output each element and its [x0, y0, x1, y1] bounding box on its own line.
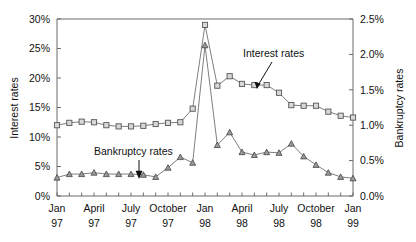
left-axis-tick-label: 20% — [29, 72, 50, 84]
data-point-marker — [338, 174, 344, 180]
data-point-marker — [326, 109, 331, 114]
right-axis-tick-label: 1.0% — [360, 119, 384, 131]
y2-axis-title: Bankruptcy rates — [393, 69, 405, 148]
series-line — [57, 45, 353, 178]
data-point-marker — [350, 115, 355, 120]
x-axis-ticks — [57, 193, 353, 197]
x-axis-tick-labels: Jan97April97July97October97Jan98April98J… — [49, 202, 362, 229]
data-point-marker — [325, 170, 331, 176]
data-point-marker — [165, 120, 170, 125]
y-axis-title: Interest rates — [8, 77, 20, 138]
left-axis-tick-label: 10% — [29, 131, 50, 143]
dual-axis-line-chart: 30%25%20%15%10%5%0% 2.5%2.0%1.5%1.0%0.5%… — [0, 0, 416, 242]
x-axis-month-label: Jan — [197, 202, 214, 214]
data-point-marker — [288, 141, 294, 147]
x-axis-year-label: 98 — [236, 217, 248, 229]
data-point-marker — [227, 129, 233, 135]
right-axis-tick-labels: 2.5%2.0%1.5%1.0%0.5%0.0% — [360, 13, 384, 202]
x-axis-month-label: October — [297, 202, 335, 214]
left-axis-tick-label: 15% — [29, 101, 50, 113]
x-axis-year-label: 98 — [310, 217, 322, 229]
right-axis-tick-label: 1.5% — [360, 84, 384, 96]
right-axis-tick-label: 0.5% — [360, 154, 384, 166]
data-point-marker — [190, 106, 195, 111]
left-axis-tick-label: 0% — [35, 190, 50, 202]
data-point-marker — [239, 149, 245, 155]
data-point-marker — [67, 120, 72, 125]
data-point-marker — [178, 120, 183, 125]
data-point-marker — [91, 120, 96, 125]
x-axis-year-label: 97 — [51, 217, 63, 229]
series-bankruptcy-rates — [54, 42, 356, 181]
data-point-marker — [215, 83, 220, 88]
chart-container: 30%25%20%15%10%5%0% 2.5%2.0%1.5%1.0%0.5%… — [0, 0, 416, 242]
data-point-marker — [177, 154, 183, 160]
series-interest-rates — [54, 22, 355, 129]
data-point-marker — [116, 124, 121, 129]
data-point-marker — [313, 162, 319, 168]
x-axis-year-label: 99 — [347, 217, 359, 229]
data-point-marker — [141, 123, 146, 128]
left-axis-tick-label: 30% — [29, 13, 50, 25]
left-axis-ticks — [57, 19, 61, 196]
data-point-marker — [202, 22, 207, 27]
interest-rates-annotation-label: Interest rates — [243, 47, 304, 59]
x-axis-month-label: Jan — [345, 202, 362, 214]
x-axis-month-label: October — [149, 202, 187, 214]
data-point-marker — [91, 170, 97, 176]
data-point-marker — [301, 103, 306, 108]
data-point-marker — [128, 124, 133, 129]
data-point-marker — [54, 123, 59, 128]
data-point-marker — [264, 82, 269, 87]
data-point-marker — [313, 103, 318, 108]
x-axis-month-label: July — [122, 202, 141, 214]
x-axis-year-label: 98 — [273, 217, 285, 229]
data-point-marker — [104, 123, 109, 128]
data-point-marker — [276, 90, 281, 95]
right-axis-tick-label: 2.0% — [360, 48, 384, 60]
x-axis-month-label: April — [231, 202, 252, 214]
right-axis-tick-label: 2.5% — [360, 13, 384, 25]
x-axis-year-label: 98 — [199, 217, 211, 229]
bankruptcy-rates-annotation-label: Bankruptcy rates — [94, 145, 173, 157]
data-point-marker — [79, 119, 84, 124]
series-line — [57, 25, 353, 126]
data-point-marker — [202, 42, 208, 48]
data-point-marker — [190, 160, 196, 166]
right-axis-ticks — [349, 19, 353, 196]
x-axis-month-label: Jan — [49, 202, 66, 214]
left-axis-tick-labels: 30%25%20%15%10%5%0% — [29, 13, 50, 202]
right-axis-tick-label: 0.0% — [360, 190, 384, 202]
x-axis-month-label: July — [270, 202, 289, 214]
x-axis-year-label: 97 — [125, 217, 137, 229]
x-axis-year-label: 97 — [88, 217, 100, 229]
left-axis-tick-label: 5% — [35, 160, 50, 172]
data-point-marker — [239, 81, 244, 86]
left-axis-tick-label: 25% — [29, 42, 50, 54]
data-point-marker — [153, 121, 158, 126]
data-point-marker — [227, 74, 232, 79]
x-axis-year-label: 97 — [162, 217, 174, 229]
data-point-marker — [338, 113, 343, 118]
x-axis-month-label: April — [83, 202, 104, 214]
data-point-marker — [289, 103, 294, 108]
series-layer — [54, 22, 356, 181]
